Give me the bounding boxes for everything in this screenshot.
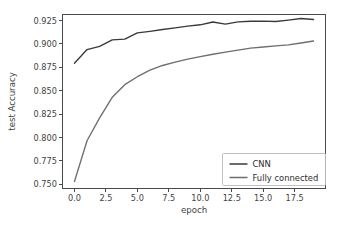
- x-tick-label: 12.5: [223, 193, 241, 203]
- y-tick-label: 0.925: [33, 16, 56, 26]
- legend-label-fully-connected: Fully connected: [253, 173, 319, 183]
- chart-legend[interactable]: CNNFully connected: [223, 154, 326, 186]
- line-chart-canvas: 0.02.55.07.510.012.515.017.50.7500.7750.…: [0, 0, 347, 226]
- x-tick-label: 2.5: [99, 193, 112, 203]
- legend-label-cnn: CNN: [253, 159, 271, 169]
- x-tick-label: 15.0: [254, 193, 272, 203]
- chart-figure: 0.02.55.07.510.012.515.017.50.7500.7750.…: [0, 0, 347, 226]
- x-tick-label: 5.0: [131, 193, 144, 203]
- y-tick-label: 0.750: [33, 179, 56, 189]
- y-tick-label: 0.775: [33, 156, 56, 166]
- x-tick-label: 10.0: [191, 193, 209, 203]
- y-tick-label: 0.900: [33, 39, 56, 49]
- x-tick-label: 17.5: [286, 193, 304, 203]
- y-tick-label: 0.825: [33, 109, 56, 119]
- y-tick-label: 0.850: [33, 86, 56, 96]
- y-axis-title: test Accuracy: [7, 72, 17, 130]
- y-tick-label: 0.800: [33, 133, 56, 143]
- x-axis-title: epoch: [181, 205, 207, 215]
- y-tick-label: 0.875: [33, 62, 56, 72]
- x-tick-label: 7.5: [162, 193, 175, 203]
- x-tick-label: 0.0: [68, 193, 81, 203]
